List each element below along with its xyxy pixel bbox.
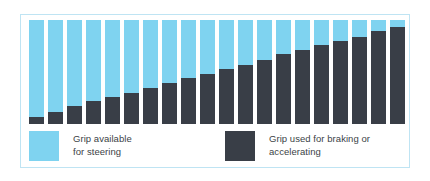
bar-segment-grip-used xyxy=(257,60,272,124)
bar-segment-grip-available xyxy=(200,20,215,74)
bar-column xyxy=(124,20,139,124)
bar-segment-grip-used xyxy=(124,93,139,124)
bar-segment-grip-available xyxy=(295,20,310,50)
bar-column xyxy=(200,20,215,124)
bar-segment-grip-used xyxy=(29,117,44,124)
figure-root: Grip available for steering Grip used fo… xyxy=(0,0,430,181)
bar-segment-grip-available xyxy=(276,20,291,54)
legend-swatch-grip-available xyxy=(29,131,59,161)
bar-column xyxy=(181,20,196,124)
bar-column xyxy=(86,20,101,124)
stacked-bar-plot-area xyxy=(29,20,405,124)
legend-swatch-grip-used xyxy=(225,131,255,161)
bar-column xyxy=(238,20,253,124)
bar-segment-grip-available xyxy=(86,20,101,101)
bar-segment-grip-available xyxy=(333,20,348,41)
bar-segment-grip-available xyxy=(67,20,82,106)
bar-column xyxy=(143,20,158,124)
bar-segment-grip-used xyxy=(86,101,101,124)
bar-segment-grip-available xyxy=(219,20,234,69)
bar-segment-grip-available xyxy=(48,20,63,112)
bar-segment-grip-used xyxy=(333,41,348,124)
bar-segment-grip-used xyxy=(295,50,310,124)
bar-segment-grip-used xyxy=(276,54,291,124)
bar-column xyxy=(276,20,291,124)
bar-column xyxy=(67,20,82,124)
bar-column xyxy=(29,20,44,124)
bar-segment-grip-used xyxy=(200,74,215,124)
bar-column xyxy=(352,20,367,124)
bar-segment-grip-available xyxy=(390,20,405,27)
bar-column xyxy=(333,20,348,124)
bar-column xyxy=(219,20,234,124)
bar-segment-grip-used xyxy=(219,69,234,124)
bar-column xyxy=(105,20,120,124)
bar-column xyxy=(257,20,272,124)
bar-column xyxy=(371,20,386,124)
bar-column xyxy=(48,20,63,124)
bar-column xyxy=(314,20,329,124)
bar-column xyxy=(295,20,310,124)
bar-segment-grip-available xyxy=(124,20,139,93)
bar-segment-grip-used xyxy=(238,65,253,124)
bar-segment-grip-used xyxy=(181,78,196,124)
bar-segment-grip-available xyxy=(143,20,158,88)
bar-segment-grip-available xyxy=(29,20,44,117)
bar-segment-grip-used xyxy=(352,37,367,124)
bar-segment-grip-used xyxy=(390,27,405,124)
bar-segment-grip-available xyxy=(371,20,386,31)
bar-segment-grip-used xyxy=(314,45,329,124)
legend-item-grip-available: Grip available for steering xyxy=(29,131,225,161)
bar-segment-grip-used xyxy=(371,31,386,124)
bar-segment-grip-available xyxy=(352,20,367,37)
bar-column xyxy=(390,20,405,124)
bar-segment-grip-used xyxy=(67,106,82,124)
bar-segment-grip-used xyxy=(105,97,120,124)
bar-segment-grip-available xyxy=(238,20,253,65)
bar-segment-grip-available xyxy=(181,20,196,78)
bar-column xyxy=(162,20,177,124)
bar-segment-grip-available xyxy=(314,20,329,45)
bar-segment-grip-used xyxy=(48,112,63,124)
bar-segment-grip-available xyxy=(162,20,177,83)
legend-label-grip-available: Grip available for steering xyxy=(73,131,132,158)
bar-segment-grip-used xyxy=(162,83,177,124)
legend-item-grip-used: Grip used for braking or accelerating xyxy=(225,131,405,161)
bar-segment-grip-available xyxy=(257,20,272,60)
chart-legend: Grip available for steering Grip used fo… xyxy=(29,131,405,163)
legend-label-grip-used: Grip used for braking or accelerating xyxy=(269,131,370,158)
bar-segment-grip-available xyxy=(105,20,120,97)
bar-segment-grip-used xyxy=(143,88,158,124)
chart-panel: Grip available for steering Grip used fo… xyxy=(20,14,410,168)
